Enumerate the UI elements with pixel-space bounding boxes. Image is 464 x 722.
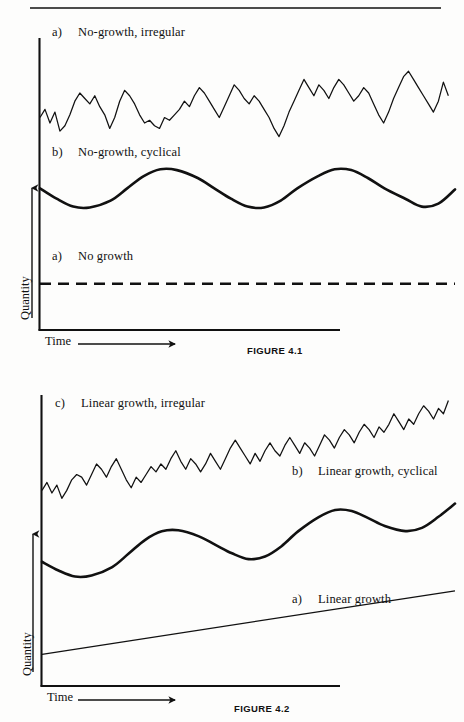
fig1-label-c-text: No-growth, irregular (78, 25, 185, 39)
fig2-linear-growth-cyclical-curve (42, 504, 455, 577)
fig2-label-a-text: Linear growth (318, 592, 391, 606)
fig2-x-axis-label: Time (47, 690, 73, 705)
fig2-y-axis-label: Quantity (20, 632, 35, 676)
fig1-y-axis-label: Quantity (18, 276, 33, 320)
figures-drawing-canvas (0, 0, 464, 722)
fig1-label-b-tag: b) (52, 145, 78, 160)
figure-4-2-group (33, 395, 455, 700)
fig2-label-a: a)Linear growth (292, 592, 391, 607)
fig2-linear-growth-irregular-curve (42, 401, 448, 499)
fig1-no-growth-cyclical-curve (40, 169, 455, 208)
fig1-no-growth-irregular-curve (40, 71, 448, 136)
fig1-label-b: b)No-growth, cyclical (52, 145, 181, 160)
fig1-x-axis-label: Time (45, 334, 71, 349)
fig2-caption: FIGURE 4.2 (234, 703, 290, 714)
fig1-label-b-text: No-growth, cyclical (78, 145, 181, 159)
fig2-label-b-text: Linear growth, cyclical (318, 464, 438, 478)
fig2-linear-growth-line (42, 591, 455, 654)
fig2-label-c: c)Linear growth, irregular (55, 396, 205, 411)
figure-page: a)No-growth, irregular b)No-growth, cycl… (0, 0, 464, 722)
fig1-label-a-tag: a) (52, 249, 78, 264)
fig1-label-a: a)No growth (52, 249, 133, 264)
fig2-label-c-text: Linear growth, irregular (81, 396, 205, 410)
figure-4-1-group (32, 38, 455, 344)
fig2-label-b: b)Linear growth, cyclical (292, 464, 438, 479)
fig1-caption: FIGURE 4.1 (247, 345, 303, 356)
fig1-label-a-text: No growth (78, 249, 133, 263)
fig2-label-c-tag: c) (55, 396, 81, 411)
fig2-label-a-tag: a) (292, 592, 318, 607)
fig1-label-c: a)No-growth, irregular (52, 25, 185, 40)
fig1-label-c-tag: a) (52, 25, 78, 40)
fig2-label-b-tag: b) (292, 464, 318, 479)
